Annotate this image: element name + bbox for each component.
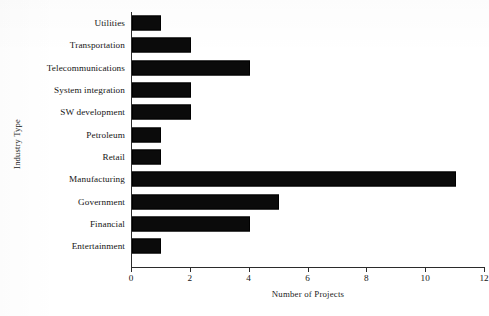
bar-rect [132,194,279,209]
bar-rect [132,38,191,53]
bar-row: Petroleum [131,124,484,146]
x-axis-tick-label: 12 [469,273,489,283]
bar-row: Transportation [131,34,484,56]
x-axis-tick-label: 4 [234,273,264,283]
x-axis-tick [425,267,426,272]
bar-rect [132,149,161,164]
x-axis-tick-label: 2 [175,273,205,283]
bar-rect [132,172,456,187]
bar-rect [132,239,161,254]
bar-category-label: Utilities [94,18,125,28]
x-axis-tick [308,267,309,272]
bar-category-label: Financial [90,219,125,229]
x-axis-tick [366,267,367,272]
bar-rect [132,127,161,142]
y-axis-title: Industry Type [12,84,22,204]
bar-row: Retail [131,146,484,168]
x-axis-tick-label: 0 [116,273,146,283]
bar-category-label: Government [78,197,125,207]
bar-chart-figure: Industry Type UtilitiesTransportationTel… [0,0,489,316]
bar-category-label: Entertainment [72,241,125,251]
bar-category-label: Retail [102,152,125,162]
x-axis-tick [484,267,485,272]
bar-category-label: Petroleum [86,130,125,140]
bar-row: Telecommunications [131,57,484,79]
bar-row: Financial [131,213,484,235]
bar-rect [132,216,250,231]
bar-row: SW development [131,101,484,123]
bar-rect [132,16,161,31]
bar-row: Utilities [131,12,484,34]
bar-category-label: Manufacturing [69,174,125,184]
bar-row: System integration [131,79,484,101]
bar-rect [132,105,191,120]
x-axis-title: Number of Projects [131,289,485,299]
bar-row: Entertainment [131,235,484,257]
x-axis-tick [249,267,250,272]
bar-row: Manufacturing [131,168,484,190]
x-axis-tick-label: 6 [293,273,323,283]
bar-row: Government [131,190,484,212]
x-axis-tick-label: 10 [410,273,440,283]
x-axis-tick-label: 8 [351,273,381,283]
bar-rect [132,83,191,98]
plot-area: UtilitiesTransportationTelecommunication… [131,12,484,267]
x-axis-tick [190,267,191,272]
bar-category-label: Transportation [70,40,125,50]
bar-category-label: SW development [60,107,125,117]
bar-rect [132,60,250,75]
bar-category-label: Telecommunications [47,63,125,73]
x-axis-tick [131,267,132,272]
bar-category-label: System integration [54,85,125,95]
